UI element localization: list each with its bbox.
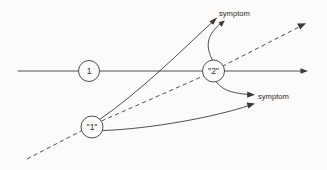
edge-node2q-to-symptom-upper xyxy=(208,21,225,61)
dashed-segment-lower xyxy=(27,131,82,160)
edge-arrowhead-2q-upper-icon xyxy=(219,21,225,28)
main-horizontal-axis xyxy=(18,68,308,74)
edge-path-2q-lower xyxy=(216,82,249,95)
symptom-label-lower: symptom xyxy=(258,92,289,101)
symptom-label-upper: symptom xyxy=(219,9,250,18)
node-2-quoted-label: "2" xyxy=(208,66,219,76)
dashed-axis-arrowhead-icon xyxy=(297,23,306,29)
node-1-quoted-label: "1" xyxy=(87,122,98,132)
node-1-plain[interactable]: 1 xyxy=(79,61,100,82)
edge-node1q-to-symptom-lower xyxy=(103,103,255,131)
edge-node1q-to-symptom-upper xyxy=(100,18,218,120)
edge-node2q-to-symptom-lower xyxy=(216,82,255,98)
edge-path-2q-upper xyxy=(208,24,220,60)
symptom-propagation-diagram: 1 "2" "1" symptom symptom xyxy=(0,0,327,170)
edge-path-1q-lower xyxy=(103,106,249,131)
node-1-quoted[interactable]: "1" xyxy=(81,116,103,138)
edge-path-1q-upper xyxy=(100,22,214,120)
node-1-plain-label: 1 xyxy=(87,66,92,76)
diagram-canvas-container: 1 "2" "1" symptom symptom xyxy=(0,0,327,170)
edge-arrowhead-2q-lower-icon xyxy=(247,92,255,98)
edge-arrowhead-1q-lower-icon xyxy=(247,103,255,109)
node-2-quoted[interactable]: "2" xyxy=(203,60,225,82)
axis-arrowhead-icon xyxy=(301,68,309,74)
dashed-segment-middle xyxy=(102,76,205,122)
dashed-segment-upper xyxy=(222,27,299,67)
